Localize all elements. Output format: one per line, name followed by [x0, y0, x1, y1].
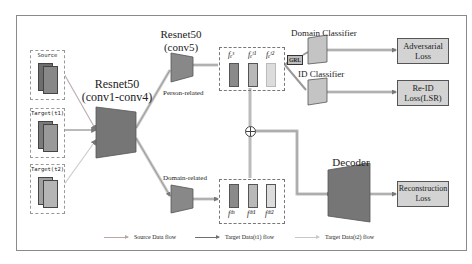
feature-label: fₑᵗ¹ — [248, 50, 256, 59]
input-target-t1: Target(t1) — [30, 108, 65, 158]
reconstruction-loss-line2: Loss — [399, 194, 447, 204]
conv5-label: Resnet50 (conv5) — [150, 28, 212, 54]
legend-source: Source Data flow — [104, 234, 176, 240]
reconstruction-loss-box: Reconstruction Loss — [397, 181, 449, 207]
feature-label: fₑᵗ² — [266, 50, 274, 59]
sum-operator-icon — [245, 126, 256, 137]
person-image — [43, 180, 58, 208]
feature-label: fᵈᵗ¹ — [247, 209, 255, 218]
conv5-name: Resnet50 — [150, 28, 212, 41]
input-source-label: Source — [31, 52, 64, 58]
legend-label: Target Data(t2) flow — [325, 234, 374, 240]
reid-loss-line1: Re-ID — [404, 83, 441, 93]
domain-classifier-label: Domain Classifier — [291, 28, 357, 38]
input-source: Source — [30, 50, 65, 100]
grl-box: GRL — [287, 55, 303, 65]
feature-label: fᵈᵗ² — [265, 209, 273, 218]
id-classifier-label: ID Classifier — [298, 69, 344, 79]
input-target-t2-label: Target(t2) — [31, 166, 64, 172]
feature-bar-t2 — [266, 63, 276, 87]
domain-feature-group: fᵈˢ fᵈᵗ¹ fᵈᵗ² — [219, 179, 285, 224]
person-related-label: Person-related — [163, 89, 203, 97]
person-feature-group: fₑˢ fₑᵗ¹ fₑᵗ² — [219, 47, 285, 91]
legend-arrow-icon — [295, 237, 319, 238]
feature-bar-source — [229, 63, 239, 87]
conv5-sub: (conv5) — [150, 41, 212, 54]
legend-target-t2: Target Data(t2) flow — [295, 234, 374, 240]
feature-bar-t1 — [248, 184, 258, 208]
input-target-t1-label: Target(t1) — [31, 110, 64, 116]
reconstruction-loss-line1: Reconstruction — [399, 184, 447, 194]
person-image — [43, 124, 58, 152]
decoder-label: Decoder — [326, 156, 376, 169]
legend-arrow-icon — [104, 237, 128, 238]
backbone-sub: (conv1-conv4) — [80, 91, 154, 104]
legend-target-t1: Target Data(t1) flow — [195, 234, 274, 240]
legend-label: Target Data(t1) flow — [225, 234, 274, 240]
adversarial-loss-line2: Loss — [403, 51, 443, 61]
feature-label: fᵈˢ — [228, 209, 234, 218]
backbone-label: Resnet50 (conv1-conv4) — [80, 78, 154, 104]
legend-arrow-icon — [195, 237, 219, 238]
input-target-t2: Target(t2) — [30, 164, 65, 214]
adversarial-loss-box: Adversarial Loss — [397, 38, 449, 64]
feature-bar-t2 — [266, 184, 276, 208]
legend-label: Source Data flow — [134, 234, 176, 240]
reid-loss-box: Re-ID Loss(LSR) — [397, 80, 449, 106]
person-image — [43, 66, 58, 94]
domain-related-label: Domain-related — [163, 174, 207, 182]
reid-loss-line2: Loss(LSR) — [404, 93, 441, 103]
adversarial-loss-line1: Adversarial — [403, 41, 443, 51]
feature-bar-source — [229, 184, 239, 208]
feature-bar-t1 — [248, 63, 258, 87]
feature-label: fₑˢ — [228, 50, 234, 59]
